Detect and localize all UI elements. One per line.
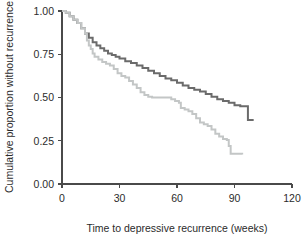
x-axis-ticks: 0306090120	[59, 184, 301, 204]
x-tick-label: 30	[114, 192, 126, 204]
y-tick-label: 0.75	[34, 48, 55, 60]
x-tick-label: 0	[59, 192, 65, 204]
x-tick-label: 90	[229, 192, 241, 204]
chart-canvas: 0.000.250.500.751.00 0306090120 Time to …	[0, 0, 305, 236]
y-axis-ticks: 0.000.250.500.751.00	[34, 5, 62, 190]
y-axis-title: Cumulative proportion without recurrence	[3, 1, 15, 193]
y-tick-label: 0.25	[34, 135, 55, 147]
x-axis-title: Time to depressive recurrence (weeks)	[86, 222, 267, 234]
y-tick-label: 0.00	[34, 178, 55, 190]
y-tick-label: 1.00	[34, 5, 55, 17]
y-tick-label: 0.50	[34, 91, 55, 103]
series-line-dark-group	[62, 11, 254, 120]
x-tick-label: 120	[283, 192, 301, 204]
x-tick-label: 60	[171, 192, 183, 204]
km-survival-chart: 0.000.250.500.751.00 0306090120 Time to …	[0, 0, 305, 236]
data-series-group	[62, 11, 254, 155]
axes-group	[62, 11, 292, 184]
